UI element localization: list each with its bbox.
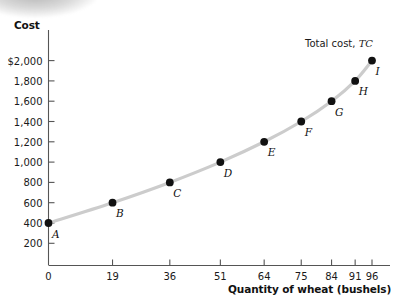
y-tick-label: $2,000 bbox=[8, 55, 43, 66]
data-point bbox=[297, 118, 305, 126]
series-label-text: Total cost, bbox=[305, 38, 359, 49]
data-points-group bbox=[45, 57, 376, 227]
y-tick-label: 1,000 bbox=[14, 157, 43, 168]
x-axis-title: Quantity of wheat (bushels) bbox=[228, 283, 391, 295]
data-point-label-b: B bbox=[116, 207, 124, 219]
data-point-label-a: A bbox=[52, 228, 60, 240]
data-point bbox=[216, 158, 224, 166]
x-tick-label: 84 bbox=[325, 271, 338, 282]
x-tick-label: 0 bbox=[45, 271, 51, 282]
data-point bbox=[45, 219, 53, 227]
data-point bbox=[328, 97, 336, 105]
series-label-symbol: TC bbox=[359, 38, 373, 49]
total-cost-curve bbox=[49, 61, 373, 223]
data-point bbox=[260, 138, 268, 146]
data-point-label-c: C bbox=[173, 187, 181, 199]
x-tick-label: 19 bbox=[106, 271, 119, 282]
data-point-label-h: H bbox=[359, 85, 368, 97]
y-axis-ticks bbox=[49, 61, 55, 244]
x-tick-label: 51 bbox=[214, 271, 227, 282]
data-point-label-e: E bbox=[268, 146, 276, 158]
x-tick-label: 96 bbox=[366, 271, 379, 282]
x-axis-ticks bbox=[113, 260, 372, 266]
chart-figure: Cost Quantity of wheat (bushels) $2,0001… bbox=[0, 0, 417, 303]
series-label: Total cost, TC bbox=[305, 38, 373, 49]
y-tick-label: 1,600 bbox=[14, 96, 43, 107]
axes-group bbox=[49, 30, 391, 266]
x-tick-label: 91 bbox=[349, 271, 362, 282]
y-axis-title: Cost bbox=[14, 19, 40, 31]
y-tick-label: 200 bbox=[23, 238, 42, 249]
y-tick-label: 1,800 bbox=[14, 75, 43, 86]
data-point bbox=[166, 179, 174, 187]
data-point-label-f: F bbox=[305, 126, 312, 138]
x-tick-label: 75 bbox=[295, 271, 308, 282]
x-tick-label: 36 bbox=[163, 271, 176, 282]
y-tick-label: 400 bbox=[23, 218, 42, 229]
data-point-label-i: I bbox=[376, 65, 380, 77]
x-tick-label: 64 bbox=[258, 271, 271, 282]
y-tick-label: 600 bbox=[23, 197, 42, 208]
data-point-label-d: D bbox=[224, 167, 232, 179]
y-tick-label: 1,200 bbox=[14, 136, 43, 147]
data-point bbox=[368, 57, 376, 65]
y-tick-label: 800 bbox=[23, 177, 42, 188]
data-point bbox=[109, 199, 117, 207]
data-point-label-g: G bbox=[335, 106, 343, 118]
y-tick-label: 1,400 bbox=[14, 116, 43, 127]
data-point bbox=[351, 77, 359, 85]
